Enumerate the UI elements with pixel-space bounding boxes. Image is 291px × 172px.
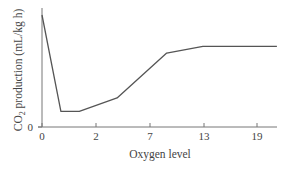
x-tick-label-7: 7: [147, 130, 153, 142]
y-tick-label-0: 0: [28, 121, 34, 133]
x-tick-label-19: 19: [252, 130, 264, 142]
x-ticks: [42, 123, 257, 127]
x-tick-label-13: 13: [199, 130, 211, 142]
chart: 0 0271319 Oxygen level CO2 production (m…: [0, 0, 291, 172]
x-tick-labels: 0271319: [39, 130, 263, 142]
y-axis-title: CO2 production (mL/kg h): [12, 9, 27, 132]
x-tick-label-2: 2: [93, 130, 99, 142]
x-axis-title: Oxygen level: [129, 148, 191, 161]
x-tick-label-0: 0: [39, 130, 45, 142]
co2-production-line: [42, 15, 277, 111]
